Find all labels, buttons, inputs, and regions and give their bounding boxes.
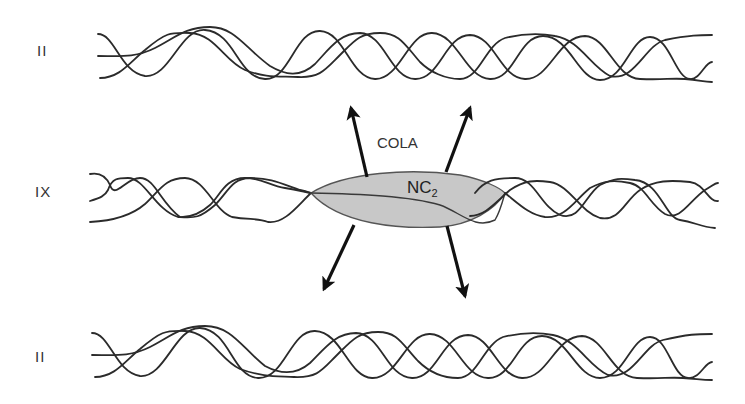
collagen-ix-left-helix [90, 173, 311, 222]
cola-label: COLA [377, 134, 418, 151]
collagen-ii-top-helix [98, 27, 712, 82]
arrow-up-left-icon [351, 108, 367, 177]
nc2-label-subscript: 2 [432, 187, 438, 199]
collagen-ii-bottom-helix [92, 326, 712, 380]
arrow-down-left-icon [324, 225, 354, 289]
arrow-down-right-icon [447, 226, 465, 296]
arrow-up-right-icon [446, 108, 470, 172]
collagen-ix-right-helix [470, 178, 718, 228]
row-label-top: II [37, 42, 47, 59]
nc2-label-main: NC [407, 178, 432, 197]
row-label-middle: IX [35, 183, 51, 200]
collagen-interaction-diagram [0, 0, 745, 404]
row-label-bottom: II [35, 348, 45, 365]
nc2-label: NC2 [407, 178, 438, 199]
